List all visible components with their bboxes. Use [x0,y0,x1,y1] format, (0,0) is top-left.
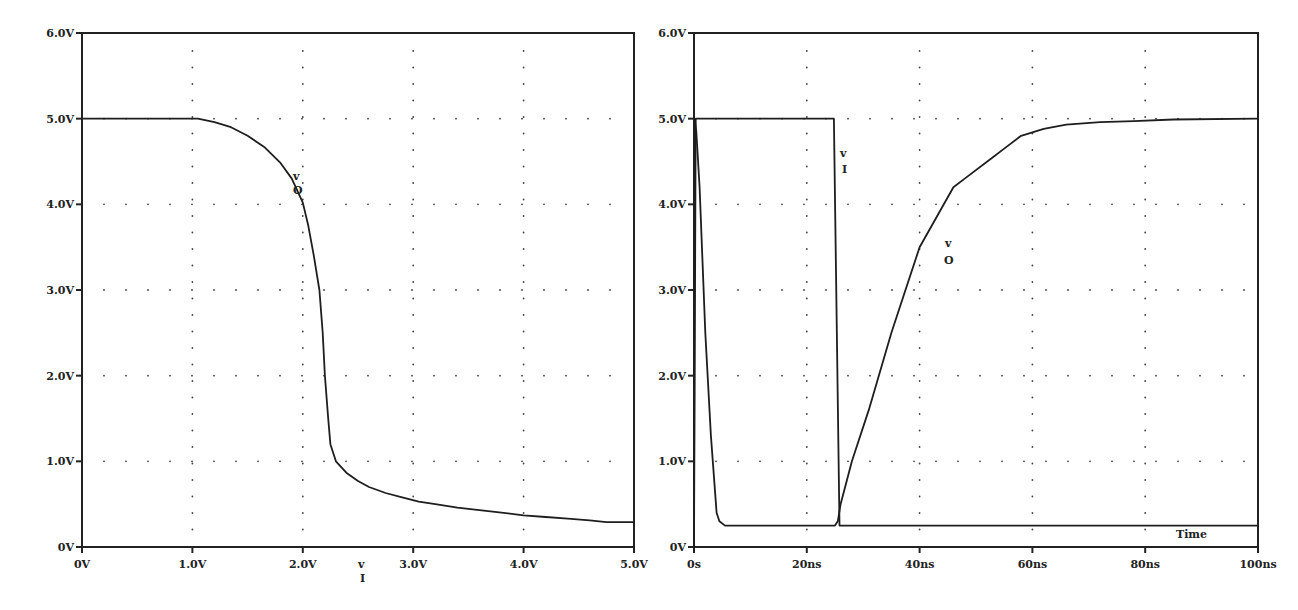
vtc-chart: 6.0V5.0V4.0V3.0V2.0V1.0V0V 0V1.0V2.0V3.0… [46,27,648,585]
plot-frame [82,33,634,547]
vo-trace [82,119,634,523]
y-tick-label: 3.0V [658,284,686,297]
x-axis-label-main: v [357,558,365,571]
x-tick-label: 60ns [1018,558,1048,571]
y-tick-label: 6.0V [658,27,686,40]
x-tick-label: 80ns [1130,558,1160,571]
vi-trace [694,119,1258,547]
x-tick-label: 100ns [1239,558,1276,571]
vo-label-sub: O [293,184,303,197]
x-tick-label: 2.0V [289,558,317,571]
figure: 6.0V5.0V4.0V3.0V2.0V1.0V0V 0V1.0V2.0V3.0… [0,0,1298,610]
x-tick-label: 0V [74,558,91,571]
x-tick-label: 4.0V [510,558,538,571]
y-tick-label: 5.0V [46,113,74,126]
y-tick-label: 5.0V [658,113,686,126]
y-tick-label: 2.0V [658,370,686,383]
x-tick-label: 5.0V [620,558,648,571]
vo-trace [694,119,1258,547]
x-tick-label: 40ns [905,558,935,571]
vi-label-sub: I [842,163,847,176]
grid-dots [103,50,611,530]
y-tick-label: 0V [58,541,75,554]
x-axis-ticks: 0s20ns40ns60ns80ns100ns [687,547,1277,571]
plot-frame [694,33,1258,547]
grid-dots [715,50,1245,530]
vo-label-sub: O [944,254,954,267]
y-tick-label: 0V [670,541,687,554]
y-tick-label: 4.0V [46,198,74,211]
x-axis-label-sub: I [360,572,365,585]
vo-label-main: v [292,170,300,183]
y-tick-label: 4.0V [658,198,686,211]
vo-label-main: v [944,237,952,250]
time-label: Time [1176,528,1207,541]
transient-chart: 6.0V5.0V4.0V3.0V2.0V1.0V0V 0s20ns40ns60n… [658,27,1276,571]
y-tick-label: 1.0V [46,455,74,468]
y-tick-label: 6.0V [46,27,74,40]
y-axis-ticks: 6.0V5.0V4.0V3.0V2.0V1.0V0V [658,27,694,554]
x-tick-label: 3.0V [399,558,427,571]
y-tick-label: 2.0V [46,370,74,383]
x-tick-label: 0s [687,558,701,571]
y-tick-label: 1.0V [658,455,686,468]
x-tick-label: 20ns [792,558,822,571]
x-tick-label: 1.0V [179,558,207,571]
y-tick-label: 3.0V [46,284,74,297]
vi-label-main: v [839,147,847,160]
y-axis-ticks: 6.0V5.0V4.0V3.0V2.0V1.0V0V [46,27,82,554]
